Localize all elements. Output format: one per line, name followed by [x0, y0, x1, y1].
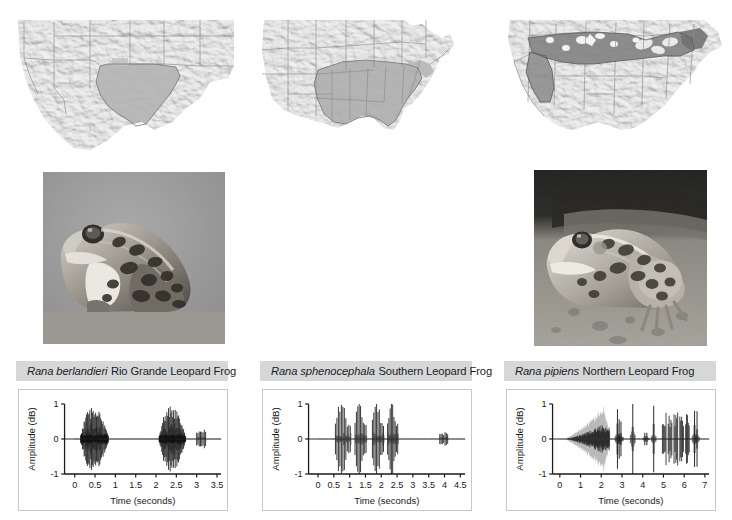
- species-caption-rio-grande: Rana berlandieriRio Grande Leopard Frog: [16, 361, 228, 381]
- frog-species-comparison-figure: Rana berlandieriRio Grande Leopard Frog …: [0, 0, 732, 520]
- svg-text:0: 0: [298, 434, 303, 444]
- svg-text:Amplitude (dB): Amplitude (dB): [270, 407, 281, 470]
- svg-text:2.5: 2.5: [391, 480, 404, 490]
- svg-text:0: 0: [557, 480, 562, 490]
- range-map-rio-grande-leopard-frog: [4, 14, 236, 154]
- svg-text:Time (seconds): Time (seconds): [110, 495, 175, 506]
- svg-text:0: 0: [316, 480, 321, 490]
- svg-text:1.5: 1.5: [129, 480, 142, 490]
- species-column-northern: Rana pipiensNorthern Leopard Frog -10101…: [488, 0, 732, 520]
- scientific-name: Rana berlandieri: [27, 365, 111, 377]
- species-caption-southern: Rana sphenocephalaSouthern Leopard Frog: [260, 361, 472, 381]
- range-map-northern-leopard-frog: [494, 10, 726, 154]
- svg-text:0: 0: [542, 434, 547, 444]
- svg-text:1: 1: [578, 480, 583, 490]
- svg-text:5: 5: [661, 480, 666, 490]
- svg-text:Time (seconds): Time (seconds): [598, 495, 663, 506]
- svg-text:Amplitude (dB): Amplitude (dB): [26, 407, 37, 470]
- svg-text:1: 1: [113, 480, 118, 490]
- svg-text:1.5: 1.5: [359, 480, 372, 490]
- svg-text:-1: -1: [295, 469, 303, 479]
- svg-text:4.5: 4.5: [454, 480, 467, 490]
- common-name: Southern Leopard Frog: [378, 365, 492, 377]
- species-column-southern: Rana sphenocephalaSouthern Leopard Frog …: [244, 0, 488, 520]
- waveform-chart-southern: -10100.511.522.533.544.5Amplitude (dB)Ti…: [262, 389, 472, 511]
- waveform-chart-northern: -10101234567Amplitude (dB)Time (seconds): [506, 389, 716, 511]
- svg-text:2: 2: [153, 480, 158, 490]
- svg-text:3.5: 3.5: [211, 480, 224, 490]
- svg-text:-1: -1: [539, 469, 547, 479]
- svg-text:6: 6: [682, 480, 687, 490]
- svg-text:3: 3: [619, 480, 624, 490]
- svg-text:4: 4: [640, 480, 645, 490]
- species-column-rio-grande: Rana berlandieriRio Grande Leopard Frog …: [0, 0, 244, 520]
- scientific-name: Rana pipiens: [515, 365, 583, 377]
- svg-text:3: 3: [194, 480, 199, 490]
- svg-text:-1: -1: [51, 469, 59, 479]
- svg-text:1: 1: [347, 480, 352, 490]
- scientific-name: Rana sphenocephala: [271, 365, 378, 377]
- svg-text:0.5: 0.5: [89, 480, 102, 490]
- svg-text:1: 1: [542, 399, 547, 409]
- svg-text:1: 1: [54, 399, 59, 409]
- photo-rio-grande-leopard-frog: [43, 172, 225, 344]
- waveform-chart-rio-grande: -10100.511.522.533.5Amplitude (dB)Time (…: [18, 389, 228, 511]
- common-name: Rio Grande Leopard Frog: [111, 365, 236, 377]
- svg-text:4: 4: [442, 480, 447, 490]
- svg-text:2.5: 2.5: [170, 480, 183, 490]
- svg-text:Amplitude (dB): Amplitude (dB): [514, 407, 525, 470]
- svg-text:3.5: 3.5: [422, 480, 435, 490]
- species-caption-northern: Rana pipiensNorthern Leopard Frog: [504, 361, 716, 381]
- svg-text:0: 0: [54, 434, 59, 444]
- common-name: Northern Leopard Frog: [583, 365, 695, 377]
- svg-text:7: 7: [702, 480, 707, 490]
- svg-text:Time (seconds): Time (seconds): [354, 495, 419, 506]
- svg-text:2: 2: [599, 480, 604, 490]
- svg-text:2: 2: [379, 480, 384, 490]
- svg-text:0.5: 0.5: [328, 480, 341, 490]
- range-map-southern-leopard-frog: [254, 12, 480, 154]
- svg-text:3: 3: [410, 480, 415, 490]
- svg-text:0: 0: [72, 480, 77, 490]
- svg-text:1: 1: [298, 399, 303, 409]
